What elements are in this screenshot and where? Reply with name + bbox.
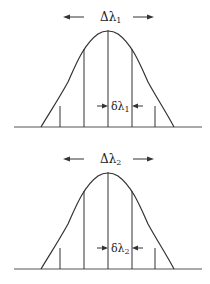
spacing-arrow-right-icon xyxy=(132,246,138,251)
spacing-arrow-left-icon xyxy=(102,104,108,109)
arrow-left-icon xyxy=(63,157,70,162)
panel-2: Δλ2 δλ2 xyxy=(14,152,202,269)
panel-1: Δλ1 δλ1 xyxy=(14,10,202,127)
spacing-label: δλ1 xyxy=(111,100,130,114)
spacing-label: δλ2 xyxy=(111,242,130,256)
diagram-canvas: Δλ1 δλ1 Δλ2 δλ2 xyxy=(0,0,210,284)
arrow-left-icon xyxy=(63,15,70,20)
width-label: Δλ1 xyxy=(100,10,121,25)
width-label: Δλ2 xyxy=(100,152,121,167)
spacing-arrow-left-icon xyxy=(102,246,108,251)
arrow-right-icon xyxy=(147,157,154,162)
arrow-right-icon xyxy=(147,15,154,20)
spacing-arrow-right-icon xyxy=(132,104,138,109)
